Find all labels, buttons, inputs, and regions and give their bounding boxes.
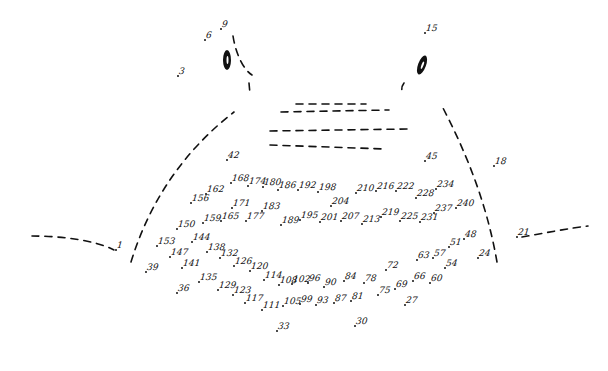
dot-number-label: 135 (200, 273, 218, 282)
dot-number-label: 3 (179, 67, 186, 76)
dot-number-label: 90 (325, 278, 337, 287)
dot-number-label: 228 (417, 189, 435, 198)
dot-number-label: 237 (435, 204, 453, 213)
dot-number-label: 162 (207, 185, 225, 194)
dot-number-label: 57 (434, 249, 446, 258)
dot-number-label: 15 (426, 24, 438, 33)
dot-number-label: 45 (426, 152, 438, 161)
dot-number-label: 27 (406, 296, 418, 305)
dot-number-label: 114 (265, 271, 283, 280)
dot-number-label: 75 (379, 286, 391, 295)
dot-number-label: 48 (465, 230, 477, 239)
dot-number-label: 84 (345, 272, 357, 281)
dot-number-label: 108 (280, 276, 298, 285)
dot-number-label: 33 (278, 322, 290, 331)
dot-number-label: 165 (222, 212, 240, 221)
dot-number-label: 201 (321, 213, 339, 222)
dot-number-label: 129 (219, 281, 237, 290)
dot-number-label: 204 (332, 197, 350, 206)
dot-number-label: 213 (363, 215, 381, 224)
dot-number-label: 36 (178, 284, 190, 293)
dot-number-label: 21 (518, 228, 530, 237)
dot-number-label: 18 (495, 157, 507, 166)
dot-number-label: 141 (183, 259, 201, 268)
dot-number-label: 99 (301, 295, 313, 304)
dot-number-label: 234 (437, 180, 455, 189)
dot-number-label: 192 (299, 181, 317, 190)
dot-number-label: 231 (421, 213, 439, 222)
dot-number-label: 225 (401, 212, 419, 221)
dot-number-label: 123 (234, 286, 252, 295)
dot-number-label: 207 (342, 212, 360, 221)
dot-number-label: 72 (387, 261, 399, 270)
dot-number-label: 69 (396, 280, 408, 289)
dot-number-label: 30 (356, 317, 368, 326)
dot-number-label: 51 (450, 238, 462, 247)
dot-number-label: 210 (357, 184, 375, 193)
dot-number-label: 1 (117, 241, 124, 250)
dot-number-label: 177 (247, 212, 265, 221)
dot-number-label: 117 (246, 294, 264, 303)
dot-number-label: 120 (251, 262, 269, 271)
dot-number-label: 171 (233, 199, 251, 208)
dot-number-label: 105 (284, 297, 302, 306)
dot-number-label: 87 (335, 294, 347, 303)
dot-number-label: 42 (228, 151, 240, 160)
dot-number-label: 219 (382, 208, 400, 217)
dot-number-label: 81 (352, 292, 364, 301)
dot-number-label: 93 (317, 296, 329, 305)
dot-number-label: 78 (365, 274, 377, 283)
dot-number-label: 54 (446, 259, 458, 268)
dot-number-label: 240 (457, 199, 475, 208)
dot-number-label: 60 (431, 274, 443, 283)
dot-number-label: 168 (232, 174, 250, 183)
dot-number-label: 198 (319, 183, 337, 192)
dot-number-label: 222 (397, 182, 415, 191)
dot-number-label: 63 (418, 251, 430, 260)
dot-number-label: 6 (206, 31, 213, 40)
dot-number-label: 189 (282, 216, 300, 225)
dot-number-label: 39 (147, 263, 159, 272)
dot-number-label: 150 (178, 220, 196, 229)
dot-number-label: 153 (158, 237, 176, 246)
dot-number-label: 111 (263, 301, 281, 310)
dot-number-label: 183 (263, 202, 281, 211)
dot-number-label: 147 (171, 248, 189, 257)
dot-number-label: 9 (222, 20, 229, 29)
dot-number-label: 156 (192, 194, 210, 203)
dot-number-label: 138 (208, 243, 226, 252)
dot-number-label: 66 (414, 272, 426, 281)
dot-number-label: 24 (479, 249, 491, 258)
dot-labels: 1369151821242730333639424548515457606366… (0, 0, 608, 371)
dot-number-label: 195 (301, 211, 319, 220)
dot-number-label: 144 (193, 233, 211, 242)
dot-number-label: 216 (377, 182, 395, 191)
dot-number-label: 126 (235, 257, 253, 266)
dot-number-label: 186 (279, 181, 297, 190)
dot-number-label: 159 (204, 214, 222, 223)
